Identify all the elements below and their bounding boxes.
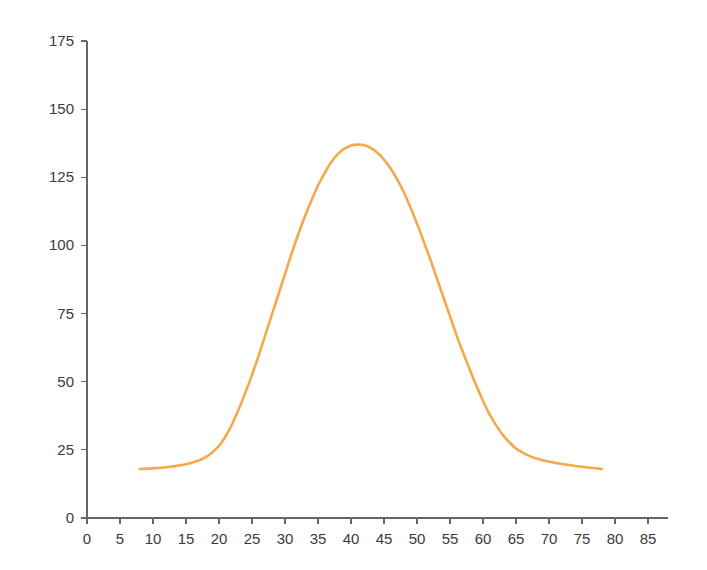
x-tick-label: 70 <box>541 530 558 547</box>
x-tick-label: 40 <box>343 530 360 547</box>
y-tick-label: 25 <box>57 441 74 458</box>
y-tick-label: 0 <box>66 509 74 526</box>
y-tick-label: 100 <box>49 236 74 253</box>
chart-container: 0255075100125150175 05101520253035404550… <box>0 0 707 570</box>
x-tick-label: 25 <box>244 530 261 547</box>
y-tick-label: 125 <box>49 168 74 185</box>
y-tick-label: 75 <box>57 305 74 322</box>
x-axis-ticks: 0510152025303540455055606570758085 <box>83 518 657 547</box>
y-tick-label: 175 <box>49 32 74 49</box>
x-tick-label: 65 <box>508 530 525 547</box>
x-tick-label: 45 <box>376 530 393 547</box>
x-tick-label: 60 <box>475 530 492 547</box>
x-tick-label: 85 <box>640 530 657 547</box>
x-tick-label: 5 <box>116 530 124 547</box>
x-tick-label: 75 <box>574 530 591 547</box>
x-tick-label: 0 <box>83 530 91 547</box>
x-tick-label: 20 <box>211 530 228 547</box>
x-tick-label: 35 <box>310 530 327 547</box>
x-tick-label: 15 <box>178 530 195 547</box>
series-line-distribution <box>140 145 602 469</box>
x-tick-label: 30 <box>277 530 294 547</box>
x-tick-label: 80 <box>607 530 624 547</box>
y-tick-label: 50 <box>57 373 74 390</box>
x-tick-label: 55 <box>442 530 459 547</box>
x-tick-label: 10 <box>145 530 162 547</box>
y-axis-ticks: 0255075100125150175 <box>49 32 87 526</box>
x-tick-label: 50 <box>409 530 426 547</box>
y-tick-label: 150 <box>49 100 74 117</box>
line-chart: 0255075100125150175 05101520253035404550… <box>0 0 707 570</box>
data-series-group <box>140 145 602 469</box>
